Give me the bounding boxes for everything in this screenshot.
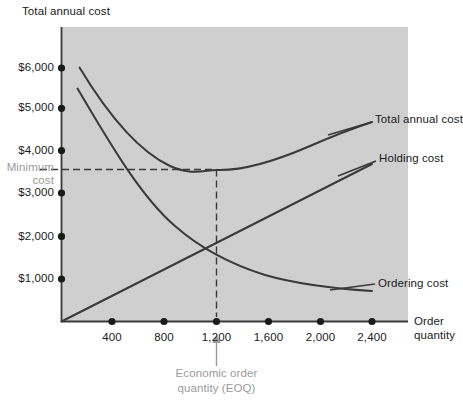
plot-background [61,27,408,322]
x-axis-title-line2: quantity [414,329,455,342]
y-tick-label-4000: $4,000 [0,144,54,157]
y-tick-dot-1000 [58,275,65,282]
series-label-total-annual-cost: Total annual cost [375,113,463,126]
y-tick-dot-5000 [58,105,65,112]
x-tick-dot-2400 [368,318,375,325]
x-tick-dot-1200 [213,318,220,325]
series-label-holding-cost: Holding cost [379,152,443,165]
y-tick-label-2000: $2,000 [0,230,54,243]
series-label-ordering-cost: Ordering cost [378,277,448,290]
x-tick-label-1600: 1,600 [247,331,291,344]
x-axis-title-line1: Order [414,315,444,328]
x-tick-dot-800 [160,318,167,325]
x-tick-label-2400: 2,400 [350,331,394,344]
x-tick-label-400: 400 [90,331,134,344]
y-tick-label-1000: $1,000 [0,272,54,285]
y-tick-label-6000: $6,000 [0,61,54,74]
x-tick-label-1200: 1,200 [195,331,239,344]
y-tick-dot-2000 [58,233,65,240]
minimum-cost-label-line2: cost [0,174,54,187]
y-tick-label-3000: $3,000 [0,186,54,199]
x-tick-dot-400 [108,318,115,325]
eoq-callout-line1: Economic order [147,367,287,380]
x-tick-label-2000: 2,000 [299,331,343,344]
y-axis-title: Total annual cost [22,5,110,18]
y-tick-dot-6000 [58,64,65,71]
x-tick-dot-1600 [265,318,272,325]
y-tick-dot-4000 [58,147,65,154]
minimum-cost-label-line1: Minimum [0,161,54,174]
x-tick-dot-2000 [317,318,324,325]
x-tick-label-800: 800 [142,331,186,344]
eoq-callout-line2: quantity (EOQ) [147,382,287,395]
y-tick-dot-3000 [58,189,65,196]
y-tick-label-5000: $5,000 [0,101,54,114]
